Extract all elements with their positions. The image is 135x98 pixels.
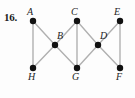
graph-vertex-b: [52, 42, 58, 48]
graph-edge-b-g: [55, 45, 77, 68]
graph-vertex-d: [95, 42, 101, 48]
vertex-label-b: B: [57, 31, 63, 41]
graph-edge-c-d: [77, 21, 98, 45]
vertex-label-f: F: [116, 72, 122, 82]
vertex-label-g: G: [72, 72, 79, 82]
vertex-label-e: E: [114, 7, 120, 17]
graph-vertex-c: [74, 18, 80, 24]
graph-edge-g-d: [77, 45, 98, 68]
vertex-label-h: H: [28, 72, 35, 82]
vertex-label-d: D: [100, 31, 107, 41]
graph-edges-group: [33, 21, 120, 68]
graph-edge-h-b: [33, 45, 55, 68]
graph-vertex-a: [30, 18, 36, 24]
vertex-label-a: A: [27, 7, 33, 17]
graph-vertex-e: [117, 18, 123, 24]
graph-edge-a-b: [33, 21, 55, 45]
figure-container: 16. ABCDEFGH: [0, 0, 135, 98]
vertex-label-c: C: [71, 7, 78, 17]
graph-edge-d-f: [98, 45, 120, 68]
